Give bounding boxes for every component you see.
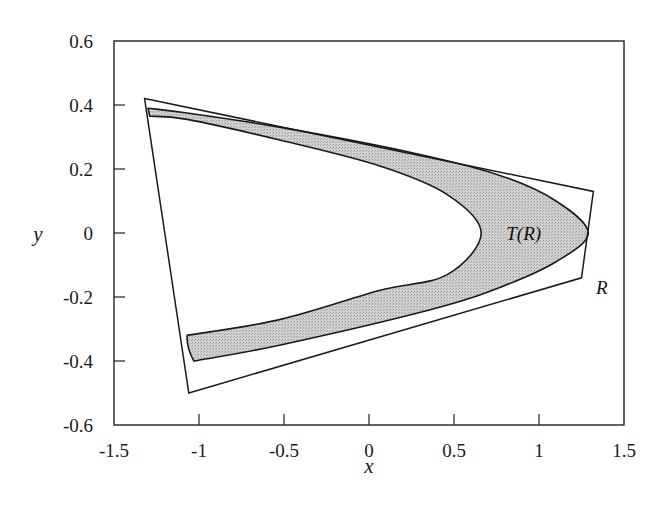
label-t-of-r: T(R) <box>506 223 541 245</box>
y-tick-label: -0.6 <box>63 415 93 436</box>
x-tick-label: 0.5 <box>442 440 466 461</box>
y-tick-label: -0.2 <box>63 287 93 308</box>
y-tick-label: 0.6 <box>69 31 93 52</box>
x-tick-label: 1 <box>534 440 544 461</box>
x-axis-label: x <box>363 454 374 478</box>
y-axis-label: y <box>31 222 43 246</box>
x-tick-label: -1.5 <box>99 440 129 461</box>
y-axis-ticks: 0.60.40.20-0.2-0.4-0.6 <box>63 31 125 436</box>
series-layer <box>145 99 594 393</box>
y-tick-label: 0.4 <box>69 95 93 116</box>
x-tick-label: 1.5 <box>612 440 636 461</box>
y-tick-label: -0.4 <box>63 351 94 372</box>
y-tick-label: 0.2 <box>69 159 93 180</box>
label-r: R <box>595 277 608 298</box>
x-tick-label: -1 <box>191 440 207 461</box>
x-tick-label: -0.5 <box>269 440 299 461</box>
chart-figure: -1.5-1-0.500.511.5 0.60.40.20-0.2-0.4-0.… <box>0 0 661 525</box>
y-tick-label: 0 <box>84 223 94 244</box>
